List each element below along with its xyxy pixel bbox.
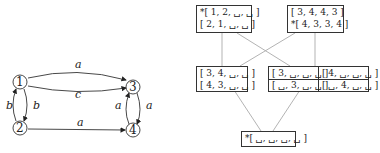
edge-label-b-left: b: [6, 99, 13, 112]
edge-label-a-right: a: [146, 99, 153, 112]
lattice-row: [ 4, 3, ␣, ␣ ]: [197, 79, 247, 91]
edge-2-1-b: [13, 89, 16, 121]
edge-3-4-a: [137, 93, 140, 124]
edge-label-a-left: a: [115, 99, 122, 112]
edge-2-4-a: [28, 129, 125, 130]
edge-label-a-bottom: a: [77, 116, 84, 129]
lattice-node-top-left: *[ 1, 2, ␣, ␣ ] [ 2, 1, ␣, ␣ ]: [196, 5, 252, 33]
lattice-node-mid-left: [ 3, 4, ␣, ␣ ] [ 4, 3, ␣, ␣ ]: [196, 66, 248, 92]
lattice-node-top-right: [ 3, 4, 4, 3 ] *[ 4, 3, 3, 4 ]: [287, 5, 344, 33]
node-1-label: 1: [16, 75, 24, 89]
edge-1-3-a: [28, 72, 126, 80]
lattice-row: *[ 4, 3, 3, 4 ]: [288, 18, 343, 30]
lattice-row: [ 2, 1, ␣, ␣ ]: [197, 18, 251, 30]
edge-4-3-a: [126, 93, 129, 124]
edge-label-c: c: [75, 88, 81, 101]
edge-label-a-top: a: [75, 58, 82, 71]
lattice-row: [ 3, 4, 4, 3 ]: [288, 6, 343, 18]
lattice-node-mid-right: [ 3, ␣, ␣, ␣ ] [ ␣, 3, ␣, ␣ ] [ 4, ␣, ␣,…: [268, 66, 369, 92]
node-2-label: 2: [16, 121, 24, 135]
lattice-row: [ 4, ␣, ␣, ␣ ]: [319, 67, 368, 79]
lattice-row: [ 3, ␣, ␣, ␣ ]: [269, 67, 318, 79]
lattice-row: *[ ␣, ␣, ␣, ␣ ]: [242, 132, 295, 144]
lattice-node-bottom: *[ ␣, ␣, ␣, ␣ ]: [241, 131, 296, 147]
lattice-row: [ ␣, 4, ␣, ␣ ]: [319, 79, 368, 91]
edge-1-2-b: [24, 89, 27, 121]
node-3-label: 3: [129, 80, 137, 94]
edge-label-b-right: b: [33, 99, 40, 112]
node-4-label: 4: [129, 123, 137, 137]
lattice-row: [ ␣, 3, ␣, ␣ ]: [269, 79, 318, 91]
lattice-row: [ 3, 4, ␣, ␣ ]: [197, 67, 247, 79]
divider: [269, 79, 368, 80]
lattice-row: *[ 1, 2, ␣, ␣ ]: [197, 6, 251, 18]
